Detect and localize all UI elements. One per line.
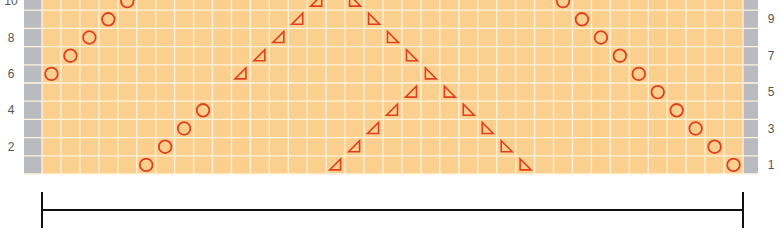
row-label-left: 4	[8, 103, 15, 117]
row-label-left: 2	[8, 140, 15, 154]
row-label-left: 6	[8, 67, 15, 81]
right-edge-column	[743, 0, 758, 174]
row-label-right: 1	[768, 158, 775, 172]
row-label-right: 7	[768, 49, 775, 63]
chart-grid: 24681013579	[0, 0, 781, 242]
left-edge-column	[24, 0, 42, 174]
knitting-chart: 24681013579	[0, 0, 781, 242]
row-label-left: 8	[8, 31, 15, 45]
row-label-left: 10	[4, 0, 18, 8]
row-label-right: 3	[768, 122, 775, 136]
chart-cells	[42, 0, 743, 174]
row-label-right: 5	[768, 85, 775, 99]
row-label-right: 9	[768, 12, 775, 26]
